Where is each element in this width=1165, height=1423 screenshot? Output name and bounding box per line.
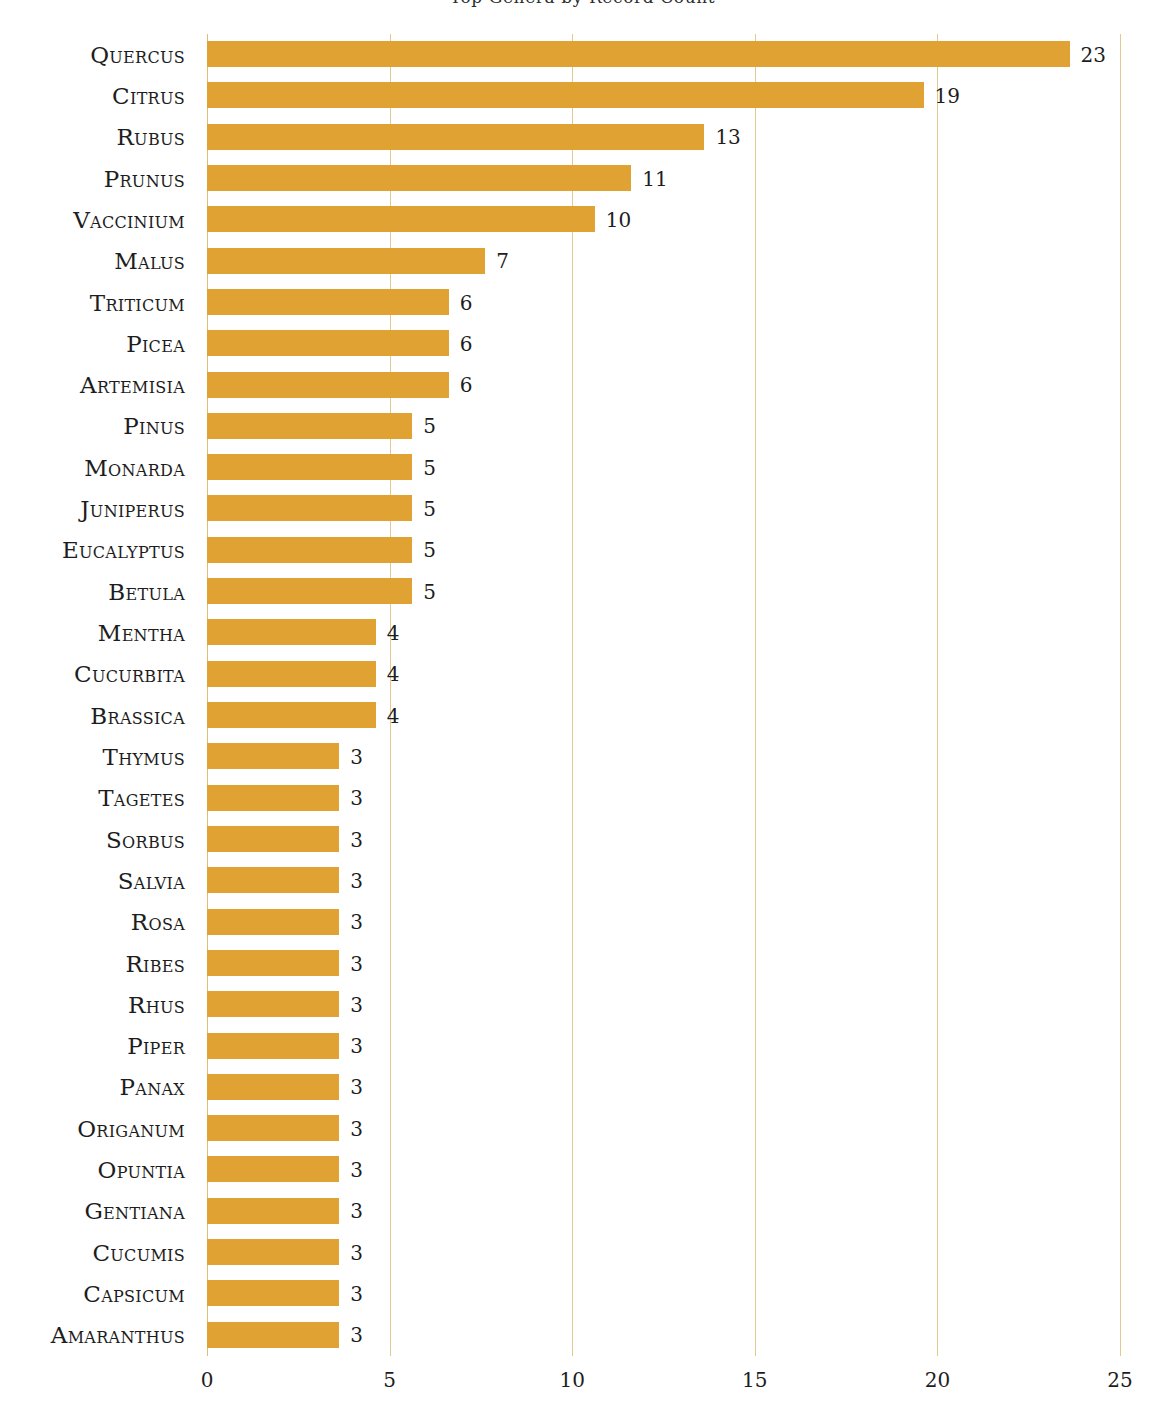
- bar[interactable]: [207, 702, 376, 728]
- category-label: Mentha: [98, 620, 185, 646]
- bar-value-label: 3: [350, 745, 363, 769]
- bar[interactable]: [207, 743, 339, 769]
- bar-value-label: 13: [715, 125, 740, 149]
- bar-row: Citrus19: [207, 75, 1120, 116]
- plot-area: Quercus23Citrus19Rubus13Prunus11Vacciniu…: [207, 34, 1120, 1356]
- bar-value-label: 5: [423, 456, 436, 480]
- bar[interactable]: [207, 1115, 339, 1141]
- bar-row: Quercus23: [207, 34, 1120, 75]
- bar-row: Eucalyptus5: [207, 530, 1120, 571]
- category-label: Panax: [120, 1074, 185, 1100]
- bar-row: Piper3: [207, 1026, 1120, 1067]
- category-label: Tagetes: [98, 785, 185, 811]
- bar[interactable]: [207, 1033, 339, 1059]
- category-label: Salvia: [118, 868, 185, 894]
- bar-value-label: 3: [350, 1075, 363, 1099]
- bar-value-label: 3: [350, 993, 363, 1017]
- bar[interactable]: [207, 661, 376, 687]
- bar[interactable]: [207, 248, 485, 274]
- category-label: Picea: [126, 331, 185, 357]
- bar-row: Origanum3: [207, 1108, 1120, 1149]
- bar[interactable]: [207, 372, 449, 398]
- bar[interactable]: [207, 1322, 339, 1348]
- bar-value-label: 6: [460, 332, 473, 356]
- bar-value-label: 19: [935, 84, 960, 108]
- bar[interactable]: [207, 495, 412, 521]
- bar-value-label: 4: [387, 662, 400, 686]
- category-label: Cucumis: [92, 1240, 185, 1266]
- bar-value-label: 3: [350, 1323, 363, 1347]
- bar-row: Triticum6: [207, 282, 1120, 323]
- bar-value-label: 4: [387, 704, 400, 728]
- bar[interactable]: [207, 82, 924, 108]
- bar-value-label: 5: [423, 414, 436, 438]
- bar-row: Vaccinium10: [207, 199, 1120, 240]
- bar-value-label: 4: [387, 621, 400, 645]
- bar-value-label: 11: [642, 167, 667, 191]
- bar[interactable]: [207, 1280, 339, 1306]
- x-tick-label: 15: [742, 1368, 767, 1392]
- bar-value-label: 3: [350, 1034, 363, 1058]
- bar-row: Panax3: [207, 1067, 1120, 1108]
- bar-row: Ribes3: [207, 943, 1120, 984]
- category-label: Triticum: [90, 290, 185, 316]
- bar-row: Monarda5: [207, 447, 1120, 488]
- category-label: Prunus: [104, 166, 185, 192]
- bar[interactable]: [207, 909, 339, 935]
- bar-row: Amaranthus3: [207, 1315, 1120, 1356]
- category-label: Rosa: [131, 909, 185, 935]
- bar-value-label: 6: [460, 291, 473, 315]
- bar-row: Opuntia3: [207, 1149, 1120, 1190]
- bar-row: Brassica4: [207, 695, 1120, 736]
- bar[interactable]: [207, 867, 339, 893]
- bar[interactable]: [207, 1198, 339, 1224]
- bar[interactable]: [207, 206, 595, 232]
- bar-row: Prunus11: [207, 158, 1120, 199]
- bar[interactable]: [207, 413, 412, 439]
- bar[interactable]: [207, 289, 449, 315]
- bar[interactable]: [207, 1239, 339, 1265]
- category-label: Cucurbita: [74, 661, 185, 687]
- bar-value-label: 3: [350, 1199, 363, 1223]
- chart-title: Top Genera by Record Count: [0, 0, 1165, 7]
- bar-value-label: 3: [350, 869, 363, 893]
- bar-row: Betula5: [207, 571, 1120, 612]
- category-label: Artemisia: [80, 372, 185, 398]
- bar-row: Thymus3: [207, 736, 1120, 777]
- bar[interactable]: [207, 826, 339, 852]
- bar[interactable]: [207, 950, 339, 976]
- bar-row: Juniperus5: [207, 488, 1120, 529]
- x-tick-label: 20: [925, 1368, 950, 1392]
- bar-row: Rosa3: [207, 902, 1120, 943]
- bar[interactable]: [207, 1074, 339, 1100]
- bar-value-label: 3: [350, 1241, 363, 1265]
- category-label: Vaccinium: [73, 207, 185, 233]
- category-label: Opuntia: [98, 1157, 185, 1183]
- bar-row: Picea6: [207, 323, 1120, 364]
- category-label: Malus: [114, 248, 185, 274]
- bar-row: Cucurbita4: [207, 654, 1120, 695]
- bar[interactable]: [207, 1156, 339, 1182]
- category-label: Piper: [127, 1033, 185, 1059]
- bar[interactable]: [207, 991, 339, 1017]
- bar[interactable]: [207, 165, 631, 191]
- bar[interactable]: [207, 619, 376, 645]
- category-label: Rubus: [116, 124, 185, 150]
- bar-value-label: 5: [423, 497, 436, 521]
- bar[interactable]: [207, 454, 412, 480]
- bar[interactable]: [207, 785, 339, 811]
- bar[interactable]: [207, 41, 1070, 67]
- category-label: Pinus: [123, 413, 185, 439]
- bar[interactable]: [207, 330, 449, 356]
- bar[interactable]: [207, 124, 704, 150]
- category-label: Capsicum: [83, 1281, 185, 1307]
- category-label: Juniperus: [80, 496, 185, 522]
- bar-value-label: 5: [423, 538, 436, 562]
- bar[interactable]: [207, 578, 412, 604]
- bar[interactable]: [207, 537, 412, 563]
- bar-value-label: 3: [350, 952, 363, 976]
- category-label: Betula: [108, 579, 185, 605]
- bar-row: Pinus5: [207, 406, 1120, 447]
- bar-value-label: 23: [1081, 43, 1106, 67]
- bar-row: Salvia3: [207, 860, 1120, 901]
